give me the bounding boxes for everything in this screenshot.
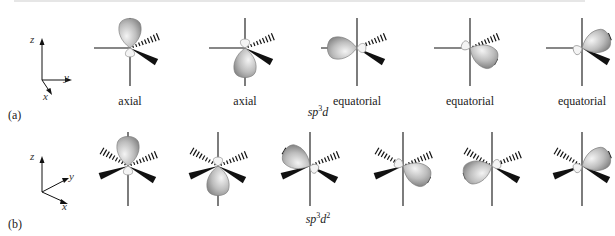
large-lobe [327,37,357,59]
hashed-bond [390,157,392,161]
hashed-bond [260,39,262,44]
hashed-bond [151,153,154,159]
hashed-bond [509,156,511,161]
sp3d2-row [99,132,614,206]
hashed-bond [330,154,332,160]
hashed-bond [467,150,470,156]
hashed-bond [374,38,376,43]
lobe-shape [119,18,141,48]
orbital-diagram [546,18,614,86]
hashed-bond [254,43,255,46]
hashed-bond [112,156,114,160]
hashed-bond [493,35,496,41]
hybridization-label-sp3d: sp3d [308,104,329,120]
hashed-bond [369,41,371,45]
hashed-bond [507,157,509,162]
axis-x-label-a: x [43,90,48,102]
hashed-bond [383,33,386,40]
hashed-bond [566,156,568,160]
orbital-diagram [209,18,274,86]
large-lobe [117,136,139,166]
small-lobe [357,43,366,52]
hashed-bond [572,159,574,162]
hashed-bond [420,156,422,161]
hashed-bond [322,159,324,163]
hashed-bond [202,156,204,160]
axes-icon-a [40,38,73,95]
orbital-diagram [99,132,158,206]
hashed-bond [251,44,252,47]
hashed-bond [325,157,327,162]
hashed-bond [208,159,210,162]
hashed-bond [190,148,194,155]
hashed-bond [148,154,150,160]
orbital-diagram [374,132,435,206]
sp3d-row [94,18,614,86]
orbital-label: axial [233,94,256,109]
hashed-bond [557,150,560,156]
hashed-bond [418,157,420,162]
hashed-bond [230,159,232,163]
part-label-a: (a) [8,108,21,123]
hashed-bond [487,38,489,43]
hashed-bond [569,157,571,161]
orbital-diagram [189,132,248,206]
hashed-bond [145,39,147,44]
hashed-bond [518,151,521,158]
hashed-bond [265,36,267,42]
hashed-bond [136,44,137,47]
hashed-bond [150,36,152,42]
hashed-bond [504,159,506,163]
hashed-bond [372,39,374,44]
hashed-bond [423,154,425,160]
hashed-bond [140,159,142,163]
axis-x-label-b: x [62,200,67,212]
hashed-bond [193,150,196,156]
wedge-bond [128,166,156,183]
hashed-bond [327,156,329,161]
wedge-bond [130,48,158,65]
hashed-bond [109,154,112,159]
hashed-bond [154,151,157,158]
hashed-bond [380,35,383,41]
part-label-b: (b) [8,217,22,232]
orbital-label: equatorial [333,94,381,109]
hashed-bond [429,151,432,158]
hashed-bond [378,150,381,156]
hashed-bond [515,153,518,159]
axis-z-label-b: z [30,150,34,162]
axis-y-label-a: y [64,71,69,83]
orbital-label: equatorial [558,94,606,109]
hashed-bond [106,152,109,157]
orbital-label: equatorial [446,94,494,109]
hashed-bond [485,39,487,44]
hashed-bond [490,36,492,42]
axis-y-label-b: y [69,170,74,182]
orbital-diagram [460,132,521,206]
hashed-bond [387,156,389,160]
lobe-shape [117,136,139,166]
hashed-bond [244,151,247,158]
hashed-bond [156,33,159,40]
hashed-bond [153,35,156,41]
hashed-bond [470,152,473,157]
hashed-bond [199,154,202,159]
hybridization-label-sp3d2: sp3d2 [306,211,331,227]
hashed-bond [384,154,387,159]
hashed-bond [118,159,120,162]
hashed-bond [211,161,212,164]
hashed-bond [238,154,240,160]
hashed-bond [100,148,104,155]
hyb-base: sp [308,105,319,119]
hashed-bond [205,157,207,161]
hashed-bond [377,36,379,42]
orbital-diagram [553,132,614,206]
axes-icon-b [40,156,70,204]
hyb-base: sp [306,212,317,226]
hashed-bond [241,153,244,159]
hashed-bond [476,156,478,160]
orbital-diagram [279,132,339,206]
hashed-bond [196,152,199,157]
hashed-bond [143,157,145,162]
large-lobe [460,156,495,187]
